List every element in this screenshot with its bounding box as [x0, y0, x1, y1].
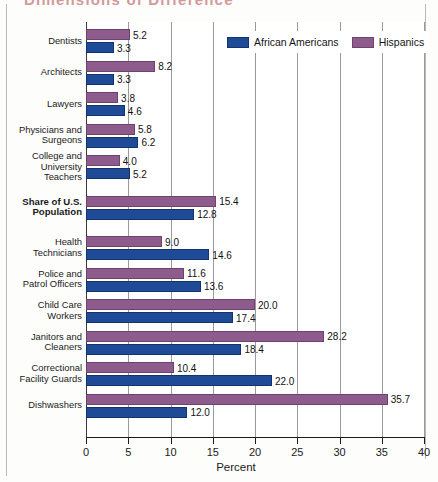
x-axis-tick-label: 20	[249, 446, 261, 458]
category-label-line: Workers	[2, 311, 82, 322]
bar-afam	[86, 42, 114, 53]
bar-value-label: 10.4	[177, 363, 196, 374]
bar-value-label: 4.6	[128, 106, 142, 117]
category-label: Dentists	[2, 36, 82, 47]
x-axis-tick-label: 0	[83, 446, 89, 458]
x-axis-tick	[86, 437, 87, 444]
category-label: HealthTechnicians	[2, 237, 82, 258]
chart-title-text: Dimensions of Difference	[24, 0, 324, 5]
legend-item-african-americans: African Americans	[227, 36, 339, 48]
category-label-line: Lawyers	[2, 99, 82, 110]
bar-value-label: 9.0	[165, 237, 179, 248]
bar-hisp	[86, 394, 388, 405]
bar-afam	[86, 105, 125, 116]
x-axis-tick-label: 30	[333, 446, 345, 458]
chart-page: Dimensions of Difference 051015202530354…	[0, 0, 438, 482]
category-label: College andUniversityTeachers	[2, 151, 82, 183]
bar-hisp	[86, 92, 118, 103]
bar-hisp	[86, 155, 120, 166]
bar-value-label: 5.2	[133, 30, 147, 41]
category-label-line: Patrol Officers	[2, 279, 82, 290]
category-label: Lawyers	[2, 99, 82, 110]
bar-value-label: 12.0	[190, 407, 209, 418]
x-axis-tick-label: 15	[207, 446, 219, 458]
category-label: Architects	[2, 67, 82, 78]
bar-value-label: 35.7	[391, 394, 410, 405]
bar-value-label: 3.3	[117, 43, 131, 54]
x-axis-tick	[340, 437, 341, 444]
bar-afam	[86, 74, 114, 85]
bar-hisp	[86, 331, 324, 342]
bar-hisp	[86, 299, 255, 310]
bar-afam	[86, 312, 233, 323]
category-label: CorrectionalFacility Guards	[2, 363, 82, 384]
category-label-line: Cleaners	[2, 342, 82, 353]
bar-hisp	[86, 196, 216, 207]
category-label-line: Technicians	[2, 248, 82, 259]
legend-item-hispanics: Hispanics	[352, 36, 425, 48]
legend-swatch-icon-african-americans	[227, 37, 249, 48]
x-axis-title-text: Percent	[216, 461, 256, 473]
category-label: Janitors andCleaners	[2, 332, 82, 353]
bar-hisp	[86, 124, 135, 135]
x-axis-tick	[213, 437, 214, 444]
bar-value-label: 12.8	[197, 209, 216, 220]
x-axis-tick	[128, 437, 129, 444]
category-label-line: Teachers	[2, 172, 82, 183]
bar-value-label: 22.0	[275, 376, 294, 387]
x-axis-tick	[171, 437, 172, 444]
bar-value-label: 14.6	[212, 250, 231, 261]
legend-label-hispanics: Hispanics	[379, 36, 425, 48]
category-label: Physicians andSurgeons	[2, 125, 82, 146]
x-axis-tick	[382, 437, 383, 444]
bar-hisp	[86, 268, 184, 279]
x-axis-title: Percent	[0, 461, 438, 473]
x-axis-tick-label: 10	[164, 446, 176, 458]
bar-afam	[86, 407, 187, 418]
bar-value-label: 28.2	[327, 331, 346, 342]
bar-afam	[86, 168, 130, 179]
x-axis-tick-label: 35	[376, 446, 388, 458]
category-label: Dishwashers	[2, 400, 82, 411]
category-label: Police andPatrol Officers	[2, 269, 82, 290]
category-label-line: Dishwashers	[2, 400, 82, 411]
gridline	[424, 22, 425, 437]
category-label-line: Dentists	[2, 36, 82, 47]
x-axis-tick	[255, 437, 256, 444]
bar-afam	[86, 249, 209, 260]
bar-value-label: 17.4	[236, 313, 255, 324]
gridline	[340, 22, 341, 437]
bar-value-label: 8.2	[158, 61, 172, 72]
bar-value-label: 20.0	[258, 300, 277, 311]
category-label-line: Architects	[2, 67, 82, 78]
bar-value-label: 3.8	[121, 93, 135, 104]
category-label: Child CareWorkers	[2, 300, 82, 321]
bar-hisp	[86, 29, 130, 40]
bar-value-label: 4.0	[123, 156, 137, 167]
bar-value-label: 15.4	[219, 196, 238, 207]
bar-hisp	[86, 61, 155, 72]
bar-value-label: 3.3	[117, 74, 131, 85]
x-axis-tick	[424, 437, 425, 444]
bar-value-label: 11.6	[187, 268, 206, 279]
bar-afam	[86, 375, 272, 386]
bar-value-label: 18.4	[244, 344, 263, 355]
category-label-line: Surgeons	[2, 135, 82, 146]
bar-afam	[86, 209, 194, 220]
page-border-right	[425, 4, 426, 459]
category-label: Share of U.S.Population	[2, 197, 82, 218]
chart-legend: African Americans Hispanics	[222, 31, 429, 53]
bar-afam	[86, 281, 201, 292]
legend-swatch-icon-hispanics	[352, 37, 374, 48]
bar-hisp	[86, 236, 162, 247]
bar-afam	[86, 344, 241, 355]
x-axis-tick-label: 5	[125, 446, 131, 458]
legend-label-african-americans: African Americans	[254, 36, 339, 48]
gridline	[382, 22, 383, 437]
category-label-line: Population	[2, 207, 82, 218]
x-axis-tick	[297, 437, 298, 444]
chart-title-clipped: Dimensions of Difference	[24, 0, 324, 5]
gridline	[297, 22, 298, 437]
bar-value-label: 5.2	[133, 169, 147, 180]
bar-afam	[86, 137, 138, 148]
